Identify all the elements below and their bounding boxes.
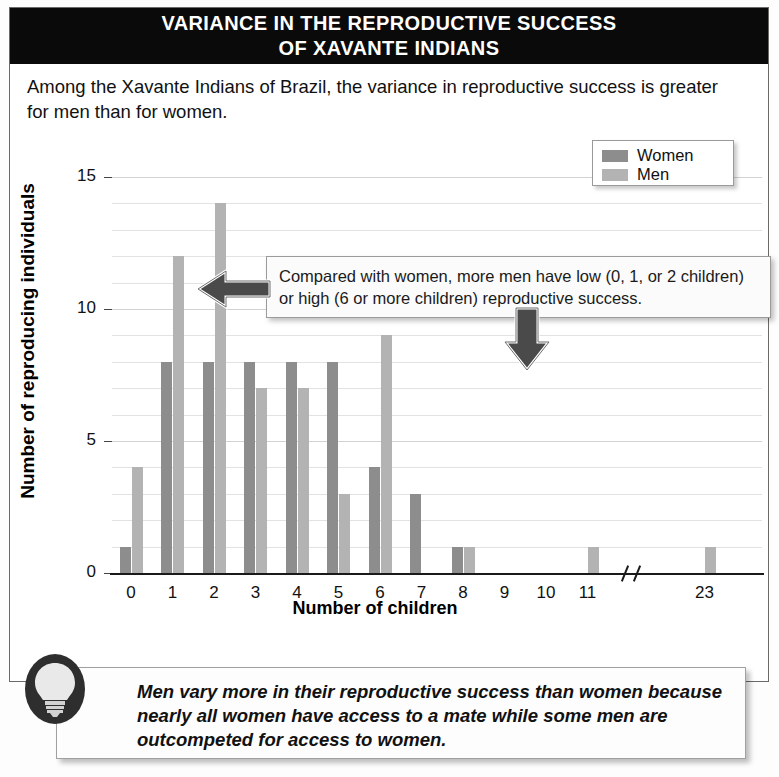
bar-women-1: [161, 362, 172, 573]
legend-swatch-women: [602, 150, 628, 162]
bar-men-0: [132, 467, 143, 573]
arrow-down-icon: [500, 306, 554, 372]
x-tick-label: 7: [407, 583, 437, 603]
x-tick-label: 11: [573, 583, 603, 603]
bar-women-7: [410, 494, 421, 573]
bar-men-6: [381, 335, 392, 573]
bar-women-8: [452, 547, 463, 573]
lightbulb-icon: [24, 653, 86, 725]
legend-swatch-men: [602, 169, 628, 181]
bar-men-3: [256, 388, 267, 573]
x-tick-label: 0: [116, 583, 146, 603]
x-tick-label: 2: [199, 583, 229, 603]
legend-item-men: Men: [602, 165, 733, 184]
bar-women-5: [327, 362, 338, 573]
bar-men-2: [215, 203, 226, 573]
bar-men-23: [705, 547, 716, 573]
x-tick-label: 8: [448, 583, 478, 603]
x-tick-label: 23: [690, 583, 720, 603]
x-tick-label: 6: [365, 583, 395, 603]
bar-men-5: [339, 494, 350, 573]
bar-men-1: [173, 256, 184, 573]
arrow-left-icon: [196, 265, 272, 313]
x-tick-label: 9: [490, 583, 520, 603]
bar-women-6: [369, 467, 380, 573]
figure-root: VARIANCE IN THE REPRODUCTIVE SUCCESS OF …: [0, 0, 779, 777]
chart-legend: Women Men: [592, 140, 734, 186]
bar-women-0: [120, 547, 131, 573]
legend-item-women: Women: [602, 146, 733, 165]
bar-women-2: [203, 362, 214, 573]
bar-women-3: [244, 362, 255, 573]
x-tick-label: 10: [531, 583, 561, 603]
legend-label-men: Men: [637, 165, 669, 184]
bar-women-4: [286, 362, 297, 573]
x-tick-label: 1: [158, 583, 188, 603]
insight-caption-text: Men vary more in their reproductive succ…: [137, 680, 731, 752]
x-tick-label: 3: [241, 583, 271, 603]
x-axis-line: [110, 573, 764, 575]
chart-plot-area: Number of reproducing individuals Number…: [0, 0, 779, 640]
bar-men-11: [588, 547, 599, 573]
x-tick-label: 5: [324, 583, 354, 603]
bar-men-8: [464, 547, 475, 573]
bar-men-4: [298, 388, 309, 573]
insight-caption-box: Men vary more in their reproductive succ…: [56, 667, 746, 759]
x-tick-label: 4: [282, 583, 312, 603]
legend-label-women: Women: [637, 146, 694, 165]
